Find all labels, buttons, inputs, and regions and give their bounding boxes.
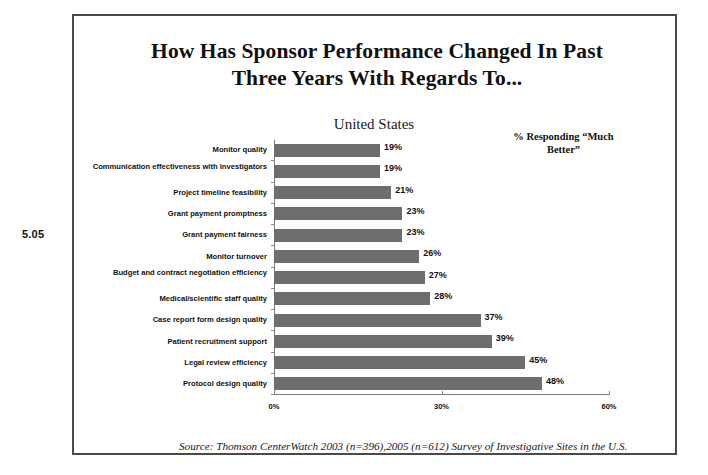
bar xyxy=(274,229,402,242)
source-note: Source: Thomson CenterWatch 2003 (n=396)… xyxy=(179,440,627,452)
x-axis-tick xyxy=(442,391,443,395)
figure-number: 5.05 xyxy=(22,228,44,240)
bar-value-label: 28% xyxy=(434,291,452,301)
bar-row: Monitor quality19% xyxy=(274,140,609,161)
bar xyxy=(274,377,542,390)
bar-value-label: 37% xyxy=(485,312,503,322)
x-axis-tick-label: 0% xyxy=(269,402,280,411)
bar-row: Grant payment fairness23% xyxy=(274,225,609,246)
category-label: Legal review efficiency xyxy=(77,358,267,368)
bar-row: Case report form design quality37% xyxy=(274,310,609,331)
bar-row: Monitor turnover26% xyxy=(274,246,609,267)
bar xyxy=(274,271,425,284)
bar xyxy=(274,165,380,178)
category-label: Grant payment fairness xyxy=(77,230,267,240)
category-label: Medical/scientific staff quality xyxy=(77,294,267,304)
bar xyxy=(274,186,391,199)
bar-row: Grant payment promptness23% xyxy=(274,204,609,225)
bar-value-label: 19% xyxy=(384,163,402,173)
bar xyxy=(274,144,380,157)
category-label: Budget and contract negotiation efficien… xyxy=(77,268,267,278)
bar-value-label: 45% xyxy=(529,355,547,365)
category-label: Protocol design quality xyxy=(77,379,267,389)
bar xyxy=(274,335,492,348)
figure-frame: How Has Sponsor Performance Changed In P… xyxy=(72,14,677,455)
bar-value-label: 23% xyxy=(406,206,424,216)
bar-row: Medical/scientific staff quality28% xyxy=(274,289,609,310)
bar xyxy=(274,314,481,327)
bar xyxy=(274,207,402,220)
category-label: Monitor turnover xyxy=(77,252,267,262)
bar-row: Legal review efficiency45% xyxy=(274,353,609,374)
bar-value-label: 23% xyxy=(406,227,424,237)
chart-title-line-2: Three Years With Regards To... xyxy=(112,65,642,92)
category-label: Grant payment promptness xyxy=(77,209,267,219)
category-label: Monitor quality xyxy=(77,145,267,155)
bar-value-label: 27% xyxy=(429,270,447,280)
bar xyxy=(274,356,525,369)
plot-area: Monitor quality19%Communication effectiv… xyxy=(274,140,609,395)
bar-row: Patient recruitment support39% xyxy=(274,331,609,352)
category-label: Patient recruitment support xyxy=(77,337,267,347)
bar xyxy=(274,250,419,263)
x-axis-tick-label: 30% xyxy=(434,402,449,411)
chart-title: How Has Sponsor Performance Changed In P… xyxy=(112,38,642,92)
x-axis-tick-label: 60% xyxy=(601,402,616,411)
bar-value-label: 26% xyxy=(423,248,441,258)
chart-title-line-1: How Has Sponsor Performance Changed In P… xyxy=(112,38,642,65)
bar-row: Budget and contract negotiation efficien… xyxy=(274,268,609,289)
bar-row: Communication effectiveness with investi… xyxy=(274,161,609,182)
bar-value-label: 39% xyxy=(496,333,514,343)
bar-value-label: 19% xyxy=(384,142,402,152)
category-label: Communication effectiveness with investi… xyxy=(77,162,267,172)
bar-value-label: 48% xyxy=(546,376,564,386)
chart-subtitle: United States xyxy=(284,116,464,133)
x-axis-tick xyxy=(274,391,275,395)
bar xyxy=(274,292,430,305)
x-axis-tick xyxy=(609,391,610,395)
category-label: Case report form design quality xyxy=(77,315,267,325)
category-label: Project timeline feasibility xyxy=(77,188,267,198)
bar-value-label: 21% xyxy=(395,185,413,195)
bar-row: Project timeline feasibility21% xyxy=(274,183,609,204)
